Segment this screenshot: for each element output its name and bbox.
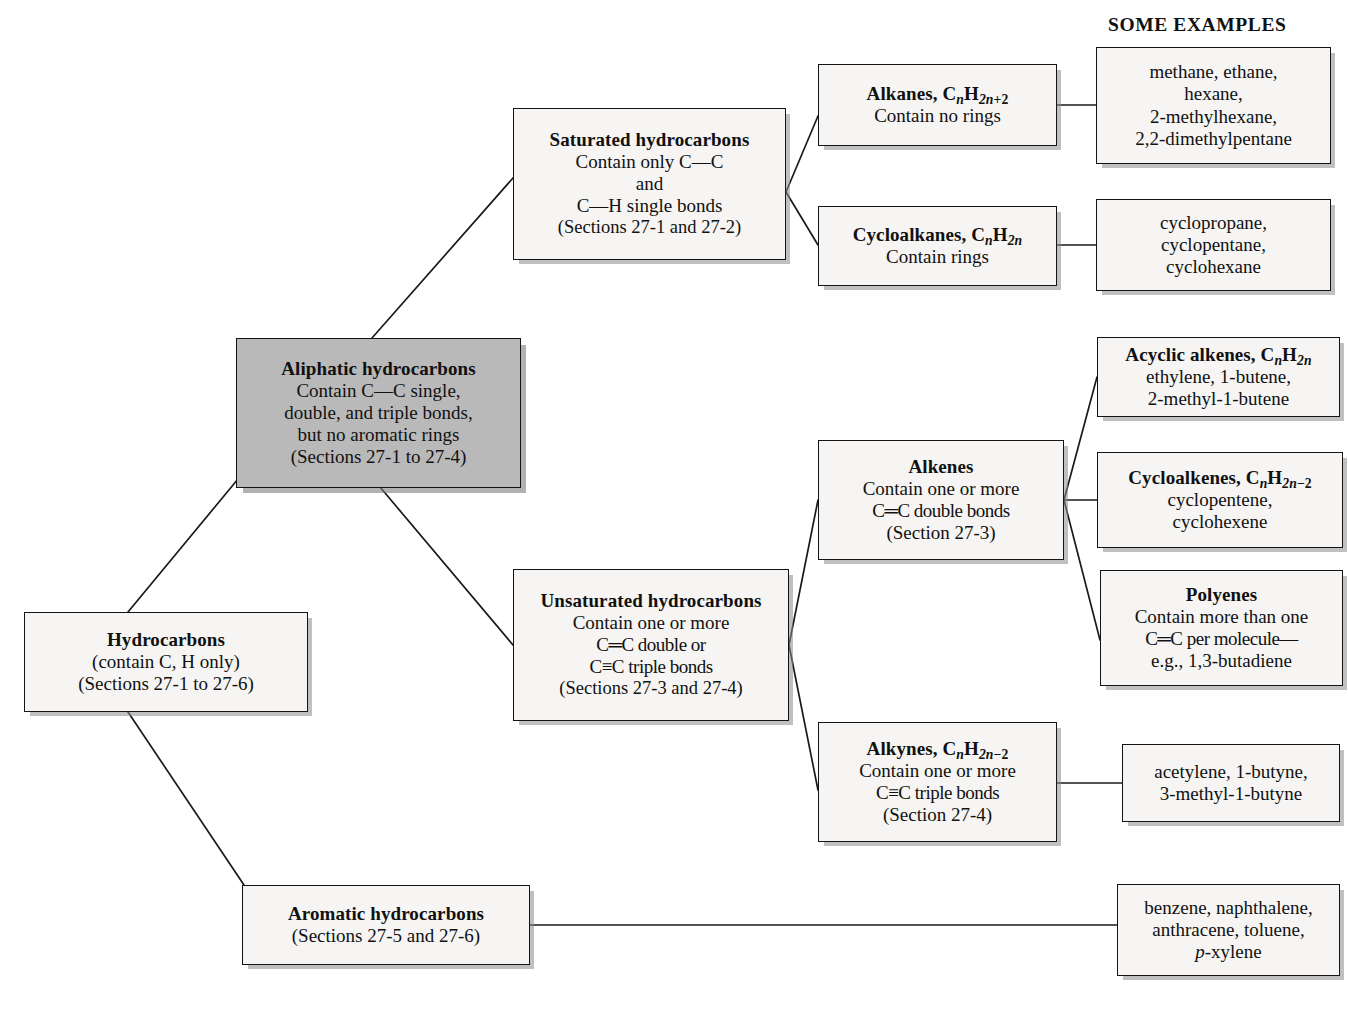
node-saturated-line-2: C—H single bonds xyxy=(577,195,723,217)
some-examples-heading: SOME EXAMPLES xyxy=(1108,14,1286,36)
example-box-aromatic[interactable]: benzene, naphthalene, anthracene, toluen… xyxy=(1117,884,1340,976)
node-alkynes-line-0: Contain one or more xyxy=(859,760,1016,782)
example-aromatic-line-1: anthracene, toluene, xyxy=(1152,919,1304,941)
connector-hydrocarbons-to-aromatic xyxy=(128,712,244,885)
node-cycloalkanes-line-0: Contain rings xyxy=(886,246,989,268)
node-alkenes-line-1: C═C double bonds xyxy=(872,500,1009,522)
connector-alkenes-to-acyclic-alkenes xyxy=(1064,377,1097,500)
connector-saturated-to-alkanes xyxy=(786,116,818,192)
node-alkenes-line-2: (Section 27-3) xyxy=(886,522,995,544)
connector-hydrocarbons-to-aliphatic xyxy=(128,479,238,612)
node-cycloalkanes[interactable]: Cycloalkanes, CnH2n Contain rings xyxy=(818,206,1057,286)
example-alkanes-line-1: hexane, xyxy=(1184,83,1243,105)
example-alkanes-line-2: 2-methylhexane, xyxy=(1150,106,1277,128)
example-aromatic-line-0: benzene, naphthalene, xyxy=(1144,897,1312,919)
example-aromatic-line-2: p-xylene xyxy=(1195,941,1261,963)
connector-saturated-to-cycloalkanes xyxy=(786,192,818,245)
connector-alkenes-to-polyenes xyxy=(1064,500,1100,640)
node-aliphatic-line-0: Contain C—C single, xyxy=(296,380,460,402)
node-polyenes[interactable]: Polyenes Contain more than one C═C per m… xyxy=(1100,570,1343,686)
example-box-alkanes[interactable]: methane, ethane, hexane, 2-methylhexane,… xyxy=(1096,47,1331,164)
node-acyclic-alkenes-line-0: ethylene, 1-butene, xyxy=(1146,366,1291,388)
node-unsaturated-line-3: (Sections 27-3 and 27-4) xyxy=(559,678,742,699)
example-cycloalkanes-line-2: cyclohexane xyxy=(1166,256,1261,278)
example-alkynes-line-1: 3-methyl-1-butyne xyxy=(1160,783,1302,805)
node-unsaturated-line-0: Contain one or more xyxy=(573,612,730,634)
node-alkynes-line-2: (Section 27-4) xyxy=(883,804,992,826)
node-polyenes-title: Polyenes xyxy=(1186,584,1258,606)
connector-aliphatic-to-unsaturated xyxy=(380,487,513,645)
node-polyenes-line-2: e.g., 1,3-butadiene xyxy=(1151,650,1292,672)
node-aliphatic-line-3: (Sections 27-1 to 27-4) xyxy=(291,446,467,468)
example-cycloalkanes-line-1: cyclopentane, xyxy=(1161,234,1266,256)
node-alkanes-title: Alkanes, CnH2n+2 xyxy=(867,83,1009,105)
hydrocarbon-classification-diagram: SOME EXAMPLES Hydrocarbons (contain C, H… xyxy=(0,0,1348,1011)
node-alkynes-title: Alkynes, CnH2n−2 xyxy=(867,738,1009,760)
node-aromatic-line-0: (Sections 27-5 and 27-6) xyxy=(292,925,480,947)
node-aliphatic-line-2: but no aromatic rings xyxy=(298,424,460,446)
node-alkanes[interactable]: Alkanes, CnH2n+2 Contain no rings xyxy=(818,64,1057,146)
node-alkynes[interactable]: Alkynes, CnH2n−2 Contain one or more C≡C… xyxy=(818,722,1057,842)
connector-unsaturated-to-alkenes xyxy=(789,500,818,645)
node-aliphatic-title: Aliphatic hydrocarbons xyxy=(281,358,476,380)
node-aliphatic-hydrocarbons[interactable]: Aliphatic hydrocarbons Contain C—C singl… xyxy=(236,338,521,488)
node-aromatic-title: Aromatic hydrocarbons xyxy=(288,903,484,925)
node-unsaturated-line-2: C≡C triple bonds xyxy=(589,656,712,678)
node-cycloalkenes-title: Cycloalkenes, CnH2n−2 xyxy=(1128,467,1311,489)
node-aromatic-hydrocarbons[interactable]: Aromatic hydrocarbons (Sections 27-5 and… xyxy=(242,885,530,965)
node-unsaturated-title: Unsaturated hydrocarbons xyxy=(540,590,761,612)
node-acyclic-alkenes-line-1: 2-methyl-1-butene xyxy=(1148,388,1289,410)
node-unsaturated-hydrocarbons[interactable]: Unsaturated hydrocarbons Contain one or … xyxy=(513,569,789,721)
node-aliphatic-line-1: double, and triple bonds, xyxy=(284,402,472,424)
node-acyclic-alkenes[interactable]: Acyclic alkenes, CnH2n ethylene, 1-buten… xyxy=(1097,337,1340,417)
node-acyclic-alkenes-title: Acyclic alkenes, CnH2n xyxy=(1125,344,1311,366)
example-alkanes-line-3: 2,2-dimethylpentane xyxy=(1135,128,1292,150)
node-saturated-line-3: (Sections 27-1 and 27-2) xyxy=(558,217,741,238)
node-saturated-line-0: Contain only C—C xyxy=(576,151,724,173)
node-alkenes-line-0: Contain one or more xyxy=(863,478,1020,500)
example-alkanes-line-0: methane, ethane, xyxy=(1149,61,1277,83)
node-alkenes[interactable]: Alkenes Contain one or more C═C double b… xyxy=(818,440,1064,560)
node-hydrocarbons-title: Hydrocarbons xyxy=(107,629,225,651)
node-polyenes-line-0: Contain more than one xyxy=(1135,606,1309,628)
node-hydrocarbons-line-1: (Sections 27-1 to 27-6) xyxy=(78,673,254,695)
connector-unsaturated-to-alkynes xyxy=(789,645,818,790)
node-cycloalkenes[interactable]: Cycloalkenes, CnH2n−2 cyclopentene, cycl… xyxy=(1097,452,1343,548)
node-saturated-line-1: and xyxy=(636,173,663,195)
example-cycloalkanes-line-0: cyclopropane, xyxy=(1160,212,1267,234)
node-saturated-hydrocarbons[interactable]: Saturated hydrocarbons Contain only C—C … xyxy=(513,108,786,260)
connector-aliphatic-to-saturated xyxy=(372,178,513,338)
example-alkynes-line-0: acetylene, 1-butyne, xyxy=(1154,761,1308,783)
node-hydrocarbons[interactable]: Hydrocarbons (contain C, H only) (Sectio… xyxy=(24,612,308,712)
node-cycloalkanes-title: Cycloalkanes, CnH2n xyxy=(853,224,1023,246)
node-cycloalkenes-line-1: cyclohexene xyxy=(1173,511,1268,533)
node-alkenes-title: Alkenes xyxy=(908,456,973,478)
node-alkanes-line-0: Contain no rings xyxy=(874,105,1001,127)
node-hydrocarbons-line-0: (contain C, H only) xyxy=(92,651,240,673)
node-polyenes-line-1: C═C per molecule— xyxy=(1145,628,1298,650)
example-box-cycloalkanes[interactable]: cyclopropane, cyclopentane, cyclohexane xyxy=(1096,199,1331,291)
example-box-alkynes[interactable]: acetylene, 1-butyne, 3-methyl-1-butyne xyxy=(1122,744,1340,822)
node-unsaturated-line-1: C═C double or xyxy=(596,634,705,656)
node-cycloalkenes-line-0: cyclopentene, xyxy=(1168,489,1273,511)
node-saturated-title: Saturated hydrocarbons xyxy=(550,129,750,151)
node-alkynes-line-1: C≡C triple bonds xyxy=(876,782,999,804)
